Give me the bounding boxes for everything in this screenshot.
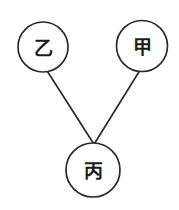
node-yi[interactable]: 乙 bbox=[18, 22, 68, 72]
node-jia-label: 甲 bbox=[133, 36, 152, 58]
node-bing[interactable]: 丙 bbox=[66, 143, 120, 197]
edge-yi-to-bing bbox=[48, 72, 94, 144]
node-jia[interactable]: 甲 bbox=[117, 21, 168, 72]
edge-jia-to-bing bbox=[95, 71, 140, 144]
node-bing-label: 丙 bbox=[84, 160, 103, 182]
node-yi-label: 乙 bbox=[34, 37, 53, 59]
graph-diagram: 乙 甲 丙 bbox=[0, 0, 179, 210]
diagram-canvas: 乙 甲 丙 bbox=[0, 0, 179, 210]
